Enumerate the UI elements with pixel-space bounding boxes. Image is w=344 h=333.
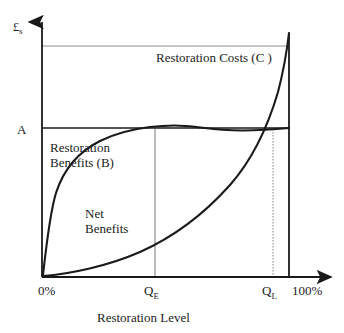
restoration-costs-benefits-figure: £s Restoration Costs (C ) A Restoration … [0, 0, 344, 333]
y-axis-label-suffix: s [19, 26, 23, 36]
x-tick-label-hundred: 100% [292, 283, 322, 298]
x-axis-title: Restoration Level [97, 310, 190, 325]
restoration-benefits-label-line1: Restoration [50, 140, 110, 155]
net-benefits-label-line2: Benefits [85, 221, 128, 236]
restoration-benefits-label: Restoration Benefits (B) [50, 140, 114, 171]
restoration-costs-label: Restoration Costs (C ) [156, 50, 272, 65]
x-tick-label-ql: QL [262, 283, 277, 301]
x-tick-label-ql-base: Q [262, 283, 271, 298]
y-axis-label: £s [13, 20, 23, 37]
net-benefits-label-line1: Net [85, 206, 104, 221]
restoration-benefits-label-line2: Benefits (B) [50, 155, 114, 170]
x-tick-label-ql-subscript: L [271, 291, 277, 301]
x-tick-label-qe-subscript: E [153, 291, 159, 301]
net-benefits-label: Net Benefits [85, 206, 128, 237]
y-tick-label-a: A [17, 122, 26, 137]
x-tick-label-qe: QE [144, 283, 159, 301]
x-tick-label-zero: 0% [38, 283, 55, 298]
x-tick-label-qe-base: Q [144, 283, 153, 298]
